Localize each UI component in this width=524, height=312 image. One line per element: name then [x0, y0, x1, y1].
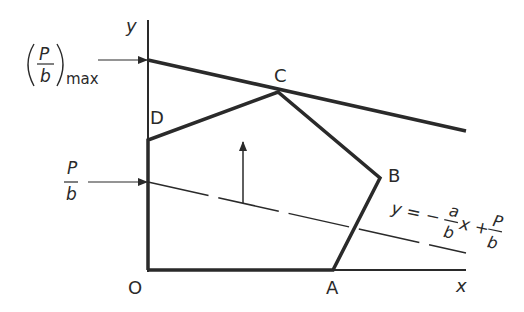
svg-text:b: b	[66, 184, 77, 204]
vertex-d-label: D	[150, 107, 164, 128]
vertex-c-label: C	[274, 65, 287, 86]
vertex-a-label: A	[326, 277, 339, 298]
svg-text:a: a	[447, 201, 461, 222]
svg-text:b: b	[442, 222, 456, 243]
svg-text:max: max	[66, 70, 99, 88]
svg-text:b: b	[486, 232, 500, 253]
x-axis-label: x	[455, 275, 467, 296]
svg-text:P: P	[491, 211, 505, 232]
svg-text:b: b	[40, 66, 51, 86]
y-axis-label: y	[125, 15, 137, 36]
linear-programming-diagram: y x O A B C D P b max P b y = − a b x + …	[0, 0, 524, 312]
svg-text:P: P	[39, 44, 50, 64]
max-objective-line	[148, 60, 466, 131]
origin-label: O	[128, 277, 142, 298]
pb-label: P b	[64, 158, 78, 204]
feasible-region	[148, 92, 380, 270]
objective-equation-label: y = − a b x + P b	[386, 189, 506, 254]
svg-text:x +: x +	[457, 213, 491, 239]
pmax-label: P b max	[28, 44, 99, 88]
vertex-b-label: B	[388, 165, 400, 186]
svg-text:P: P	[67, 158, 78, 178]
svg-text:y = −: y = −	[389, 197, 442, 227]
